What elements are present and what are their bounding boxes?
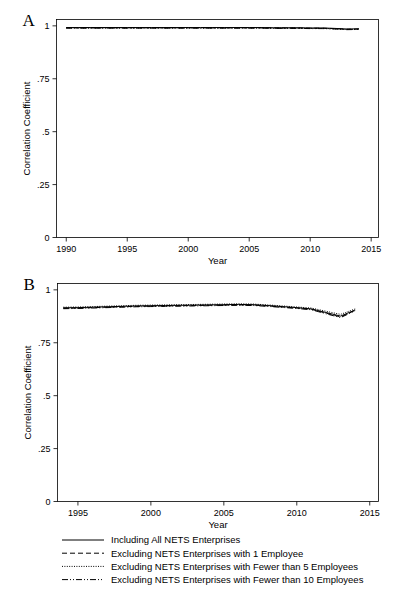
- series-line-B-3: [63, 305, 355, 317]
- x-tick-label: 2015: [361, 244, 381, 254]
- x-tick-label: 2010: [287, 508, 307, 518]
- y-axis-title-A: Correlation Coefficient: [21, 81, 32, 175]
- x-tick-label: 2005: [214, 508, 234, 518]
- legend-item-label: Excluding NETS Enterprises with Fewer th…: [111, 574, 364, 585]
- legend-item-label: Excluding NETS Enterprises with Fewer th…: [111, 561, 358, 572]
- x-tick-label: 1990: [56, 244, 76, 254]
- x-tick-label: 1995: [68, 508, 88, 518]
- panel-letter-B: B: [24, 275, 35, 294]
- legend-item[interactable]: Excluding NETS Enterprises with 1 Employ…: [62, 548, 303, 559]
- x-tick-label: 1995: [117, 244, 137, 254]
- plot-frame-A: [57, 20, 379, 238]
- x-tick-label: 2000: [178, 244, 198, 254]
- x-tick-label: 2000: [141, 508, 161, 518]
- panel-A: A0.25.5.751199019952000200520102015YearC…: [21, 11, 382, 266]
- y-tick-label: 0: [45, 497, 50, 507]
- y-tick-label: 1: [44, 21, 49, 31]
- legend-item-label: Excluding NETS Enterprises with 1 Employ…: [111, 548, 303, 559]
- panel-B: B0.25.5.75119952000200520102015YearCorre…: [22, 275, 380, 530]
- panel-letter-A: A: [23, 11, 36, 30]
- y-tick-label: .5: [43, 391, 51, 401]
- y-tick-label: .75: [37, 74, 50, 84]
- legend-item[interactable]: Including All NETS Enterprises: [62, 534, 241, 545]
- x-axis-title-A: Year: [208, 255, 227, 266]
- legend-item-label: Including All NETS Enterprises: [111, 534, 241, 545]
- y-tick-label: .5: [42, 127, 50, 137]
- x-tick-label: 2015: [360, 508, 380, 518]
- legend-item[interactable]: Excluding NETS Enterprises with Fewer th…: [62, 561, 358, 572]
- y-axis-title-B: Correlation Coefficient: [22, 345, 33, 439]
- legend-item[interactable]: Excluding NETS Enterprises with Fewer th…: [62, 574, 364, 585]
- y-tick-label: .25: [38, 444, 51, 454]
- x-tick-label: 2010: [300, 244, 320, 254]
- plot-frame-B: [58, 284, 379, 502]
- y-tick-label: 1: [45, 285, 50, 295]
- x-axis-title-B: Year: [208, 519, 227, 530]
- correlation-coefficient-figure: A0.25.5.751199019952000200520102015YearC…: [0, 0, 412, 605]
- legend: Including All NETS EnterprisesExcluding …: [62, 534, 364, 585]
- x-tick-label: 2005: [239, 244, 259, 254]
- y-tick-label: 0: [44, 233, 49, 243]
- y-tick-label: .25: [37, 180, 50, 190]
- y-tick-label: .75: [38, 338, 51, 348]
